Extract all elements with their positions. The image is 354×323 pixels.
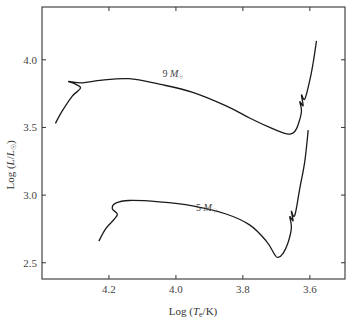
y-axis-ticks: 2.53.03.54.0 — [23, 54, 345, 269]
x-axis-ticks: 4.24.03.83.6 — [102, 7, 317, 295]
y-tick-label: 3.0 — [23, 189, 37, 201]
x-tick-label: 3.8 — [236, 283, 250, 295]
hr-diagram: 4.24.03.83.6 2.53.03.54.0 9 M☉5 M☉ Log (… — [0, 0, 354, 323]
evolution-tracks: 9 M☉5 M☉ — [55, 41, 316, 258]
x-tick-label: 3.6 — [303, 283, 317, 295]
y-tick-label: 4.0 — [23, 54, 37, 66]
plot-frame — [42, 7, 345, 279]
series-label: 9 M☉ — [163, 68, 184, 80]
series-label: 5 M☉ — [196, 202, 217, 214]
x-axis-label: Log (Te/K) — [169, 305, 218, 319]
track-line-5msun — [99, 130, 308, 257]
track-line-9msun — [55, 41, 316, 134]
x-tick-label: 4.0 — [169, 283, 183, 295]
y-tick-label: 3.5 — [23, 121, 37, 133]
x-tick-label: 4.2 — [102, 283, 116, 295]
y-axis-label: Log (L/L☉) — [4, 140, 18, 189]
y-tick-label: 2.5 — [23, 257, 37, 269]
